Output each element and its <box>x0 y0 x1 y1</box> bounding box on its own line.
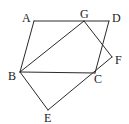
point-label-F: F <box>115 53 122 67</box>
segment-BC <box>20 72 95 73</box>
segment-AB <box>20 21 34 72</box>
segment-EF <box>48 57 112 110</box>
point-label-B: B <box>8 69 16 83</box>
segment-BE <box>20 72 48 110</box>
point-label-C: C <box>94 72 102 86</box>
point-label-A: A <box>22 11 31 25</box>
segment-BG <box>20 21 84 72</box>
diagram-canvas: AGDBCFE <box>0 0 129 124</box>
geometry-diagram: AGDBCFE <box>0 0 129 124</box>
point-label-G: G <box>80 7 89 21</box>
point-label-E: E <box>44 111 51 124</box>
point-label-D: D <box>112 11 121 25</box>
